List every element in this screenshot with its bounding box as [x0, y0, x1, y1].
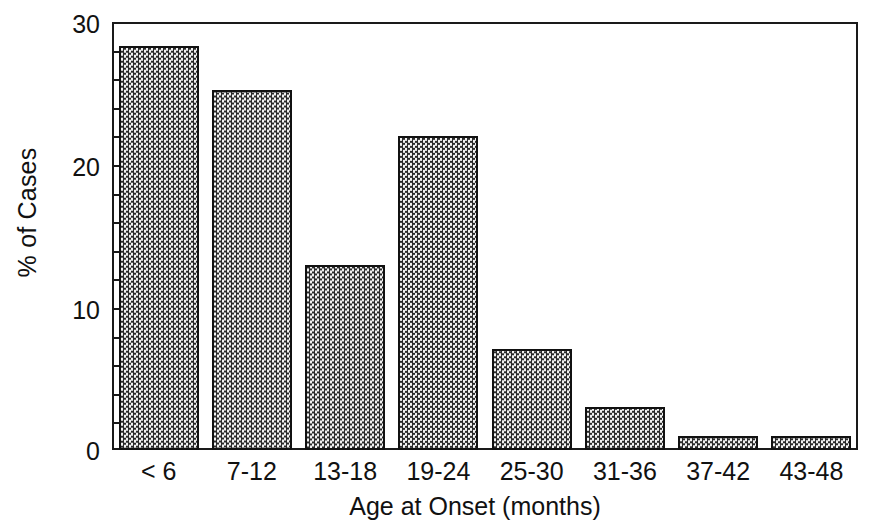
x-axis-title: Age at Onset (months) [0, 492, 882, 521]
x-tick-label-1: 7-12 [205, 457, 298, 486]
bar-7-12[interactable] [212, 90, 292, 450]
x-tick-label-4: 25-30 [485, 457, 578, 486]
x-tick-label-0: < 6 [112, 457, 205, 486]
x-tick-label-5: 31-36 [578, 457, 671, 486]
bar-25-30[interactable] [492, 349, 572, 450]
x-tick-label-6: 37-42 [672, 457, 765, 486]
x-tick-label-3: 19-24 [392, 457, 485, 486]
bar-19-24[interactable] [398, 136, 478, 450]
bars-layer [0, 0, 882, 527]
bar-37-42[interactable] [678, 436, 758, 450]
x-tick-label-2: 13-18 [299, 457, 392, 486]
x-axis-title-text: Age at Onset (months) [281, 492, 601, 521]
bar-31-36[interactable] [585, 407, 665, 450]
bar-lt-6[interactable] [119, 46, 199, 450]
bar-43-48[interactable] [771, 436, 851, 450]
bar-13-18[interactable] [305, 265, 385, 450]
bar-chart-figure: % of Cases 30 20 10 0 < 6 7-12 13-18 19-… [0, 0, 882, 527]
x-tick-label-7: 43-48 [765, 457, 858, 486]
